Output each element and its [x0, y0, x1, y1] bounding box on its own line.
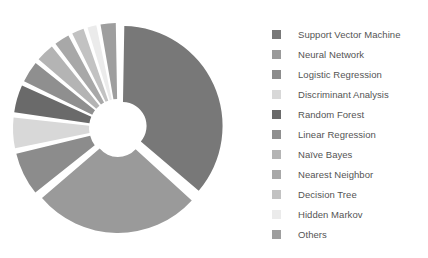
legend-item-label: Neural Network — [298, 49, 364, 60]
legend-item[interactable]: Random Forest — [272, 104, 428, 124]
legend-item[interactable]: Discriminant Analysis — [272, 84, 428, 104]
legend-swatch-icon — [272, 170, 281, 179]
legend-item[interactable]: Hidden Markov — [272, 204, 428, 224]
legend-item[interactable]: Linear Regression — [272, 124, 428, 144]
legend-swatch-icon — [272, 110, 281, 119]
chart-legend: Support Vector MachineNeural NetworkLogi… — [272, 24, 428, 244]
legend-swatch-icon — [272, 210, 281, 219]
legend-swatch-icon — [272, 50, 281, 59]
legend-swatch-icon — [272, 130, 281, 139]
legend-item[interactable]: Logistic Regression — [272, 64, 428, 84]
donut-chart-area — [0, 0, 258, 258]
legend-item-label: Nearest Neighbor — [298, 169, 373, 180]
legend-swatch-icon — [272, 230, 281, 239]
legend-item[interactable]: Others — [272, 224, 428, 244]
legend-item-label: Hidden Markov — [298, 209, 363, 220]
legend-item-label: Random Forest — [298, 109, 364, 120]
legend-item[interactable]: Naïve Bayes — [272, 144, 428, 164]
legend-item[interactable]: Nearest Neighbor — [272, 164, 428, 184]
legend-item-label: Support Vector Machine — [298, 29, 401, 40]
legend-swatch-icon — [272, 30, 281, 39]
pie-chart-figure: Support Vector MachineNeural NetworkLogi… — [0, 0, 428, 258]
legend-item-label: Logistic Regression — [298, 69, 382, 80]
legend-item[interactable]: Neural Network — [272, 44, 428, 64]
legend-item-label: Linear Regression — [298, 129, 376, 140]
legend-item-label: Discriminant Analysis — [298, 89, 389, 100]
legend-item[interactable]: Decision Tree — [272, 184, 428, 204]
legend-swatch-icon — [272, 190, 281, 199]
donut-chart-svg — [0, 0, 258, 258]
legend-swatch-icon — [272, 90, 281, 99]
legend-item[interactable]: Support Vector Machine — [272, 24, 428, 44]
legend-item-label: Others — [298, 229, 327, 240]
legend-swatch-icon — [272, 150, 281, 159]
legend-swatch-icon — [272, 70, 281, 79]
legend-item-label: Decision Tree — [298, 189, 357, 200]
legend-item-label: Naïve Bayes — [298, 149, 352, 160]
